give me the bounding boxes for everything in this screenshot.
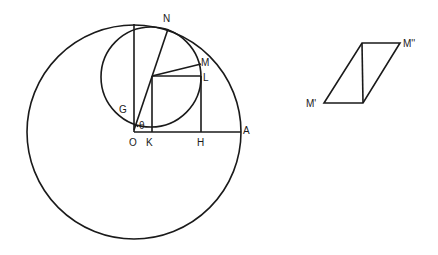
label-A: A bbox=[243, 125, 250, 136]
label-theta: θ bbox=[139, 120, 145, 131]
label-H: H bbox=[197, 137, 204, 148]
geometry-diagram: N M L G θ O K H A M' M'' bbox=[0, 0, 438, 255]
line-ON bbox=[134, 29, 168, 130]
label-M-double-prime: M'' bbox=[403, 38, 415, 49]
label-N: N bbox=[163, 13, 170, 24]
label-G: G bbox=[119, 104, 127, 115]
label-M-prime: M' bbox=[306, 98, 316, 109]
label-M: M bbox=[201, 57, 209, 68]
parallelogram-diagonal bbox=[362, 43, 363, 103]
label-L: L bbox=[203, 72, 209, 83]
label-O: O bbox=[129, 137, 137, 148]
label-K: K bbox=[146, 137, 153, 148]
line-PM bbox=[152, 64, 201, 76]
